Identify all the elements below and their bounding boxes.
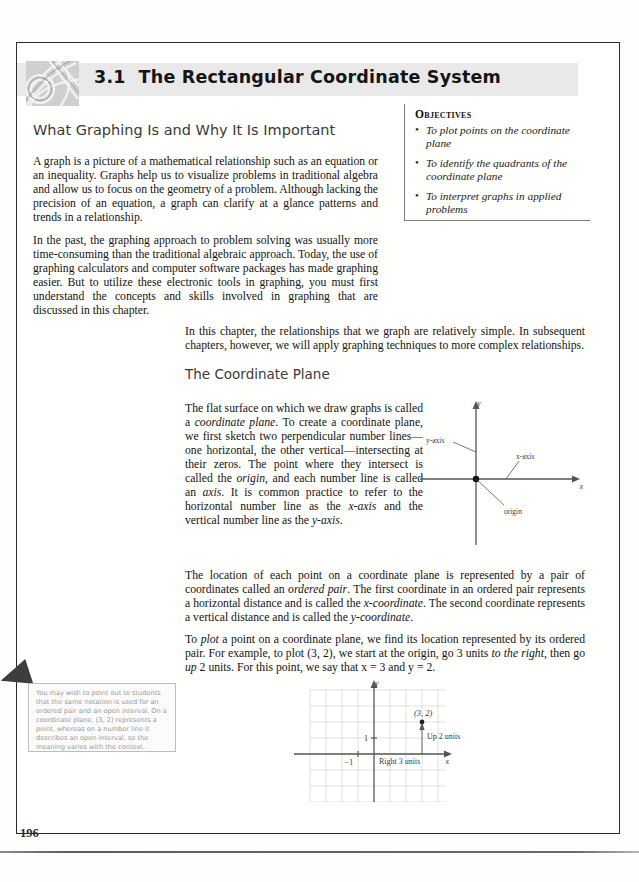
- x-axis-tip-label: x: [444, 757, 449, 766]
- term-ordered-pair: ordered pair: [288, 583, 347, 596]
- term-coordinate-plane: coordinate plane: [195, 416, 276, 429]
- objectives-title: Objectives: [415, 108, 584, 120]
- objective-text: To interpret graphs in applied problems: [426, 190, 561, 215]
- coordinate-plane-axes-diagram: y x y-axis x-axis origin: [420, 393, 590, 545]
- text-run: To: [185, 633, 201, 646]
- objective-text: To identify the quadrants of the coordin…: [426, 157, 567, 182]
- term-y-coordinate: y-coordinate: [351, 611, 410, 624]
- paragraph-ordered-pair: The location of each point on a coordina…: [185, 569, 585, 625]
- text-run: .: [340, 514, 343, 527]
- objective-item: •To identify the quadrants of the coordi…: [415, 157, 584, 184]
- x-axis-tip-label: x: [578, 482, 583, 491]
- term-to-the-right: to the right: [492, 647, 544, 660]
- subheading-what-graphing: What Graphing Is and Why It Is Important: [33, 122, 335, 138]
- section-title: 3.1The Rectangular Coordinate System: [94, 67, 501, 87]
- y-axis-tip-label: y: [476, 399, 481, 408]
- y-axis-callout-label: y-axis: [426, 436, 444, 445]
- origin-callout-label: origin: [504, 507, 522, 516]
- term-x-axis: x-axis: [348, 500, 376, 513]
- paragraph-coordinate-plane: The flat surface on which we draw graphs…: [185, 402, 423, 529]
- page-number: 196: [20, 826, 39, 841]
- page-bottom-rule: [0, 851, 639, 853]
- objective-item: •To interpret graphs in applied problems: [415, 190, 584, 217]
- paragraph-graph-definition: A graph is a picture of a mathematical r…: [33, 155, 378, 225]
- y-axis-tip-label: y: [374, 679, 379, 688]
- text-run: .: [410, 611, 413, 624]
- text-run: , then go: [544, 647, 585, 660]
- paragraph-plot-point: To plot a point on a coordinate plane, w…: [185, 633, 585, 675]
- decorative-pattern-icon: [26, 61, 79, 106]
- bullet-icon: •: [415, 189, 419, 202]
- bullet-icon: •: [415, 156, 419, 169]
- teacher-note-box: You may wish to point out to students th…: [28, 683, 176, 752]
- bullet-icon: •: [415, 123, 419, 136]
- paragraph-chapter-scope: In this chapter, the relationships that …: [185, 325, 585, 353]
- objectives-list: •To plot points on the coordinate plane …: [415, 124, 584, 216]
- right-units-label: Right 3 units: [379, 757, 420, 766]
- section-number: 3.1: [94, 67, 126, 87]
- plot-point-3-2-grid: (3, 2) Up 2 units Right 3 units 1 −1 y x: [286, 676, 482, 802]
- term-axis: axis: [202, 486, 221, 499]
- up-units-label: Up 2 units: [427, 732, 460, 741]
- term-x-coordinate: x-coordinate: [364, 597, 423, 610]
- term-plot: plot: [201, 633, 219, 646]
- paragraph-graphing-history: In the past, the graphing approach to pr…: [33, 234, 378, 319]
- term-y-axis: y-axis: [312, 514, 340, 527]
- tick-label-one: 1: [364, 734, 368, 743]
- point-label: (3, 2): [414, 708, 433, 718]
- objective-item: •To plot points on the coordinate plane: [415, 124, 584, 151]
- tick-label-negative-one: −1: [345, 758, 354, 767]
- term-up: up: [185, 661, 197, 674]
- text-run: 2 units. For this point, we say that x =…: [197, 661, 435, 674]
- x-axis-callout-label: x-axis: [516, 452, 534, 461]
- subheading-coordinate-plane: The Coordinate Plane: [185, 366, 330, 382]
- term-origin: origin: [236, 472, 265, 485]
- section-title-text: The Rectangular Coordinate System: [139, 67, 501, 87]
- objectives-box: Objectives •To plot points on the coordi…: [404, 104, 590, 221]
- objective-text: To plot points on the coordinate plane: [426, 124, 570, 149]
